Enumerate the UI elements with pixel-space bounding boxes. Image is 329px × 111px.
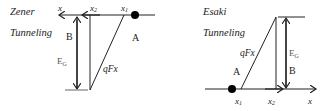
esaki-qfx-label: qFx <box>240 48 256 58</box>
zener-region-a: A <box>132 32 140 43</box>
esaki-electron-dot <box>228 85 236 93</box>
tunneling-diagram: Zener Tunneling x x2 x1 B A EG qFx Esaki… <box>0 0 329 111</box>
zener-panel: Zener Tunneling x x2 x1 B A EG qFx <box>10 3 155 90</box>
zener-qfx-label: qFx <box>103 64 119 74</box>
zener-band-slope <box>90 15 124 90</box>
zener-title: Zener <box>10 6 35 17</box>
zener-electron-dot <box>131 11 139 19</box>
esaki-title: Esaki <box>202 6 226 17</box>
esaki-eg-label: EG <box>289 48 300 59</box>
esaki-subtitle: Tunneling <box>203 27 245 38</box>
esaki-axis-label: x <box>307 96 312 106</box>
zener-x2-label: x2 <box>89 3 97 13</box>
zener-axis-label: x <box>57 3 62 13</box>
zener-region-b: B <box>66 31 73 42</box>
esaki-region-b: B <box>289 65 296 76</box>
esaki-panel: Esaki Tunneling x1 x2 x A B EG qFx <box>202 6 316 106</box>
zener-x1-label: x1 <box>120 3 128 13</box>
zener-subtitle: Tunneling <box>10 27 52 38</box>
esaki-x1-label: x1 <box>234 96 242 106</box>
zener-eg-label: EG <box>57 56 68 67</box>
esaki-x2-label: x2 <box>267 96 275 106</box>
esaki-region-a: A <box>233 66 241 77</box>
